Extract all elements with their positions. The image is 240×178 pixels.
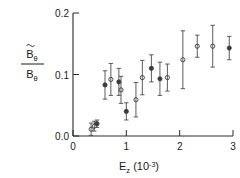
marker-filled-circle — [95, 122, 99, 126]
marker-filled-circle — [117, 80, 121, 84]
x-axis-label-main: E — [119, 160, 126, 172]
y-tick-label-1: 0.1 — [55, 70, 69, 81]
x-tick-label-0: 0 — [70, 141, 76, 152]
marker-filled-circle — [227, 46, 231, 50]
marker-filled-circle — [158, 77, 162, 81]
x-tick-label-3: 3 — [230, 141, 236, 152]
marker-filled-circle — [124, 109, 128, 113]
y-axis-numerator-main: B — [26, 48, 33, 60]
x-tick-label-1: 1 — [124, 141, 130, 152]
y-axis-denominator-main: B — [26, 68, 33, 80]
chart-background — [0, 0, 240, 178]
x-axis-label-unit-open: (10 — [130, 160, 149, 172]
marker-filled-circle — [103, 83, 107, 87]
x-axis-label-unit-close: ) — [155, 160, 159, 172]
x-tick-label-2: 2 — [177, 141, 183, 152]
y-axis-denominator-sub: θ — [34, 74, 38, 83]
y-axis-numerator-sub: θ — [34, 54, 38, 63]
y-tick-label-0: 0.0 — [55, 131, 69, 142]
marker-filled-circle — [149, 66, 153, 70]
y-tick-label-2: 0.2 — [55, 8, 69, 19]
chart-figure: 0.0 0.1 0.2 0 1 2 3 Ez (10-3) Bθ Bθ — [0, 0, 240, 178]
